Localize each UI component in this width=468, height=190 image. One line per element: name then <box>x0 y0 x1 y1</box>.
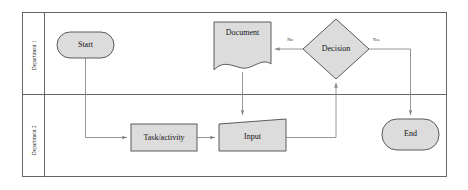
connector-start-to-task <box>86 58 128 138</box>
node-document[interactable]: Document <box>214 22 271 70</box>
document-label: Document <box>226 28 260 37</box>
task-label: Task/activity <box>143 133 184 142</box>
edge-label-yes: Yes <box>373 37 380 42</box>
lane-label-department-2: Department 2 <box>31 125 37 155</box>
input-label: Input <box>244 132 262 141</box>
edge-label-no: No <box>287 37 293 42</box>
node-start[interactable]: Start <box>57 32 114 58</box>
decision-label: Decision <box>322 44 350 53</box>
lane-1-label-text: Department 1 <box>31 40 37 70</box>
lane-label-department-1: Department 1 <box>31 40 37 70</box>
node-decision[interactable]: Decision <box>303 19 369 79</box>
connector-input-to-decision <box>286 83 336 138</box>
lane-2-label-text: Department 2 <box>31 125 37 155</box>
flowchart-canvas: Department 1 Department 2 Start Document <box>0 0 468 190</box>
swimlane-flowchart: Department 1 Department 2 Start Document <box>0 0 468 190</box>
node-end[interactable]: End <box>382 119 439 150</box>
end-label: End <box>404 129 417 138</box>
start-label: Start <box>78 40 94 49</box>
node-task-activity[interactable]: Task/activity <box>131 124 197 151</box>
connector-decision-to-end <box>369 49 411 115</box>
node-input[interactable]: Input <box>219 119 286 151</box>
